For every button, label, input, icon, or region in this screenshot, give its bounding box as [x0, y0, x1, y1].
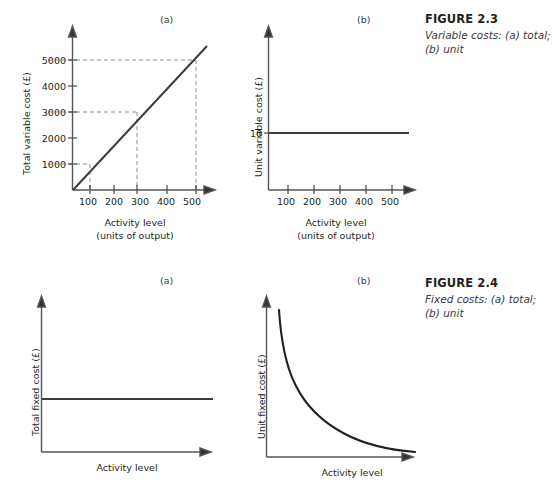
chart-fig23b: (b) 10 100 200 300 400 500 Unit variable…: [240, 0, 430, 250]
x-axis-title-line1: Activity level: [305, 217, 366, 228]
chart-canvas-fig23a: [0, 0, 240, 250]
x-tick-500: 500: [381, 196, 399, 207]
y-tick-4000: 4000: [26, 81, 66, 92]
figure-title-2-3: FIGURE 2.3: [425, 13, 555, 26]
figure-subtitle-2-3-line2: (b) unit: [425, 43, 464, 55]
y-axis-title-fig23a: Total variable cost (£): [21, 72, 32, 175]
figure-subtitle-2-4: Fixed costs: (a) total; (b) unit: [425, 293, 555, 320]
x-tick-100: 100: [277, 196, 295, 207]
chart-canvas-fig23b: [240, 0, 430, 250]
figure-subtitle-2-4-line1: Fixed costs: (a) total;: [425, 293, 536, 305]
panel-label-fig23b: (b): [357, 14, 370, 25]
chart-fig24a: (a) Total fixed cost (£) Activity level: [0, 265, 240, 492]
data-curve-fig24b: [279, 310, 415, 452]
figure-caption-2-4: FIGURE 2.4 Fixed costs: (a) total; (b) u…: [425, 277, 555, 320]
figure-subtitle-2-4-line2: (b) unit: [425, 307, 464, 319]
x-tick-400: 400: [157, 196, 175, 207]
x-axis-title-line1: Activity level: [104, 217, 165, 228]
x-axis-title-fig24b: Activity level: [302, 466, 402, 479]
chart-fig23a: (a): [0, 0, 240, 250]
x-tick-300: 300: [131, 196, 149, 207]
x-axis-title-fig23a: Activity level (units of output): [85, 216, 185, 242]
panel-label-fig23a: (a): [160, 14, 173, 25]
x-axis-title-line2: (units of output): [297, 230, 374, 241]
x-tick-300: 300: [329, 196, 347, 207]
x-tick-200: 200: [105, 196, 123, 207]
panel-label-fig24a: (a): [160, 275, 173, 286]
y-tick-3000: 3000: [26, 107, 66, 118]
axes-fig23b: [265, 26, 415, 194]
figure-subtitle-2-3-line1: Variable costs: (a) total;: [425, 29, 551, 41]
x-axis-title-fig23b: Activity level (units of output): [286, 216, 386, 242]
panel-label-fig24b: (b): [357, 275, 370, 286]
guide-lines-fig23a: [48, 60, 196, 190]
x-axis-title-fig24a: Activity level: [77, 461, 177, 474]
x-tick-100: 100: [79, 196, 97, 207]
y-axis-title-fig23b: Unit variable cost (£): [253, 77, 264, 177]
y-tick-1000: 1000: [26, 159, 66, 170]
y-tick-2000: 2000: [26, 133, 66, 144]
chart-canvas-fig24b: [240, 265, 430, 492]
figure-title-2-4: FIGURE 2.4: [425, 277, 555, 290]
x-tick-400: 400: [355, 196, 373, 207]
x-axis-title-line2: (units of output): [96, 230, 173, 241]
axes-fig24b: [263, 296, 413, 461]
x-tick-500: 500: [183, 196, 201, 207]
y-axis-title-fig24a: Total fixed cost (£): [30, 348, 41, 436]
axes-fig23a: [69, 26, 215, 194]
figure-caption-2-3: FIGURE 2.3 Variable costs: (a) total; (b…: [425, 13, 555, 56]
figure-subtitle-2-3: Variable costs: (a) total; (b) unit: [425, 29, 555, 56]
axes-fig24a: [38, 296, 211, 456]
y-axis-title-fig24b: Unit fixed cost (£): [256, 354, 267, 439]
x-tick-200: 200: [303, 196, 321, 207]
chart-fig24b: (b) Unit fixed cost (£) Activity level: [240, 265, 430, 492]
y-tick-5000: 5000: [26, 55, 66, 66]
data-line-fig23a: [73, 46, 207, 190]
